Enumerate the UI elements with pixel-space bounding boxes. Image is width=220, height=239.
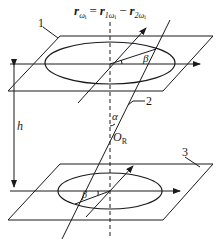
label-part-1: 1	[38, 16, 44, 30]
alpha-arc	[110, 124, 115, 126]
top-diagonal-arrow	[78, 28, 146, 103]
leader-1	[43, 27, 58, 38]
formula: rωi=r1ωi−r2ωi	[74, 3, 146, 20]
diagram-canvas: rωi=r1ωi−r2ωi	[0, 0, 220, 239]
label-center-O: OR	[113, 130, 128, 146]
label-part-3: 3	[182, 145, 188, 159]
label-beta-top: β	[142, 52, 149, 64]
label-alpha: α	[112, 110, 118, 122]
bottom-beta-line	[75, 191, 110, 204]
label-height: h	[17, 119, 23, 133]
label-beta-bottom: β	[81, 189, 87, 200]
label-part-2: 2	[146, 94, 152, 108]
leader-2	[128, 101, 145, 105]
